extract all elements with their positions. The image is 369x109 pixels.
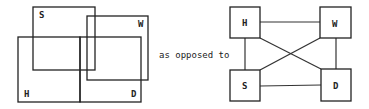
node-label-w: W: [332, 19, 338, 29]
node-label-d: D: [333, 81, 339, 91]
node-label-h: H: [242, 18, 247, 28]
right-diagram: H W S D: [230, 7, 351, 101]
connector-text: as opposed to: [159, 50, 229, 60]
label-w: W: [138, 19, 144, 29]
label-h: H: [24, 89, 29, 99]
edge-s-d: [260, 85, 321, 86]
node-label-s: S: [242, 81, 247, 91]
diagram-canvas: S W H D as opposed to H W S D: [0, 0, 369, 109]
left-diagram: S W H D: [18, 7, 148, 102]
label-s: S: [39, 10, 44, 20]
label-d: D: [131, 89, 137, 99]
